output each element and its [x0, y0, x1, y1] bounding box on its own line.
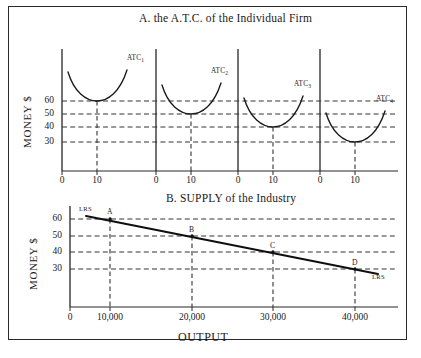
- point-a-label: A: [107, 208, 112, 216]
- atc4-label-sub: 4: [390, 98, 393, 104]
- point-b-label: B: [189, 226, 194, 234]
- panel-b-xtick-0: 0: [62, 313, 78, 323]
- atc2-curve-label: ATC2: [211, 68, 228, 77]
- panel-a-ytick-40: 40: [36, 122, 54, 132]
- panel-b-title: B. SUPPLY of the Industry: [166, 193, 296, 205]
- panel-b-xtick-30000: 30,000: [247, 313, 299, 323]
- panel-a-gridlines: [62, 101, 398, 142]
- atc2-curve: [162, 83, 221, 114]
- atc1-label-text: ATC: [127, 54, 141, 62]
- panel-a-ytick-50: 50: [36, 109, 54, 119]
- panel-b-xtick-10000: 10,000: [84, 313, 136, 323]
- atc1-curve-label: ATC1: [127, 55, 144, 64]
- point-c-marker: [271, 250, 274, 253]
- panel-a-ytick-30: 30: [36, 137, 54, 147]
- atc4-label-text: ATC: [376, 95, 390, 103]
- panel-a-firm1-xtick-0: 0: [55, 176, 69, 186]
- panel-b-y-axis-label: MONEY $: [28, 238, 39, 290]
- panel-b-ytick-60: 60: [44, 214, 62, 224]
- atc3-label-text: ATC: [294, 80, 308, 88]
- atc2-label-text: ATC: [211, 67, 225, 75]
- lrs-supply-line: [86, 216, 378, 274]
- panel-a-firm2-xtick-10: 10: [183, 176, 199, 186]
- point-a-marker: [108, 217, 111, 220]
- panel-a-y-axis-label: MONEY $: [22, 96, 33, 148]
- atc4-curve-label: ATC4: [376, 96, 393, 105]
- lrs-label-right: LRS: [372, 274, 385, 281]
- panel-a-title: A. the A.T.C. of the Individual Firm: [139, 13, 312, 25]
- atc3-curve-label: ATC3: [294, 81, 311, 90]
- panel-b-gridlines: [70, 219, 398, 269]
- panel-b-xtick-20000: 20,000: [166, 313, 218, 323]
- atc3-label-sub: 3: [308, 83, 311, 89]
- panel-a-firm3-xtick-0: 0: [231, 176, 245, 186]
- atc2-label-sub: 2: [225, 70, 228, 76]
- panel-a-firm4-xtick-0: 0: [313, 176, 327, 186]
- panel-a-firm1-xtick-10: 10: [89, 176, 105, 186]
- atc1-label-sub: 1: [141, 57, 144, 63]
- point-b-marker: [190, 234, 193, 237]
- point-d-marker: [353, 267, 356, 270]
- panel-b-ytick-30: 30: [44, 264, 62, 274]
- panel-b-xtick-40000: 40,000: [329, 313, 381, 323]
- panel-b-ytick-50: 50: [44, 231, 62, 241]
- panel-a-firm3-xtick-10: 10: [265, 176, 281, 186]
- atc1-curve: [68, 70, 127, 101]
- panel-b-x-axis-label: OUTPUT: [178, 331, 228, 343]
- panel-a-ytick-60: 60: [36, 96, 54, 106]
- panel-a-firm4-xtick-10: 10: [347, 176, 363, 186]
- panel-a-droplines: [97, 101, 355, 171]
- panel-b-ytick-40: 40: [44, 247, 62, 257]
- panel-a-firm2-xtick-0: 0: [149, 176, 163, 186]
- point-c-label: C: [270, 242, 275, 250]
- lrs-label-left: LRS: [79, 206, 92, 213]
- point-d-label: D: [352, 259, 357, 267]
